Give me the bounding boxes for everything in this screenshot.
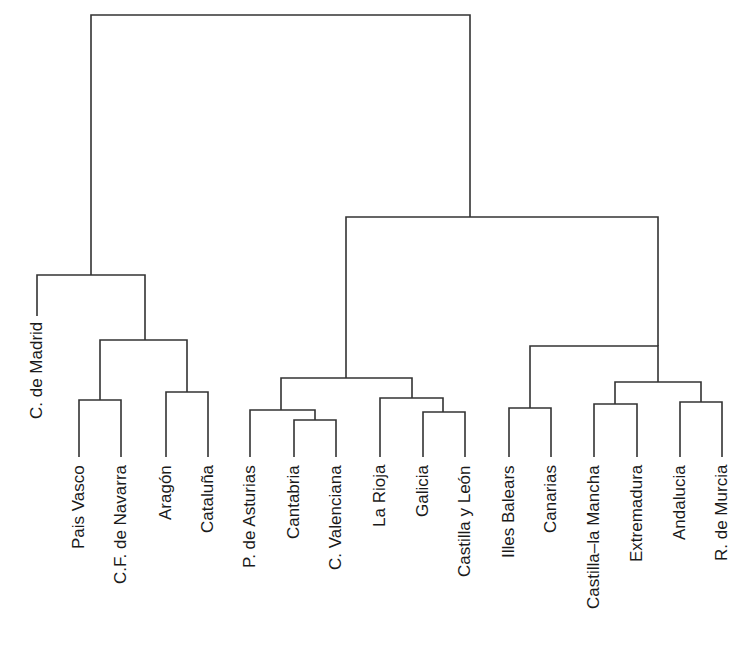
merge-link bbox=[380, 398, 443, 457]
leaf-label: Galicia bbox=[414, 465, 431, 517]
merge-link bbox=[509, 408, 551, 457]
leaf-label: Aragón bbox=[157, 465, 174, 520]
leaf-label: C.F. de Navarra bbox=[112, 465, 129, 584]
merge-link bbox=[100, 340, 187, 400]
leaf-label: La Rioja bbox=[371, 465, 388, 527]
merge-link bbox=[250, 410, 315, 457]
leaf-label: Castilla–la Mancha bbox=[585, 465, 602, 609]
leaf-label: C. Valenciana bbox=[327, 465, 344, 570]
leaf-label: Cantabria bbox=[285, 465, 302, 539]
leaf-label: Canarias bbox=[542, 465, 559, 533]
merge-link bbox=[530, 346, 658, 408]
merge-link bbox=[346, 217, 658, 378]
leaf-label: Illes Balears bbox=[500, 465, 517, 558]
merge-link bbox=[423, 412, 465, 457]
merge-link bbox=[680, 402, 722, 457]
merge-link bbox=[615, 382, 701, 404]
leaf-label: Castilla y León bbox=[456, 465, 473, 577]
merge-link bbox=[594, 404, 637, 457]
leaf-label: C. de Madrid bbox=[28, 322, 45, 419]
merge-link bbox=[166, 392, 208, 457]
leaf-label: Pais Vasco bbox=[70, 465, 87, 549]
leaf-label: R. de Murcia bbox=[713, 465, 730, 561]
merge-link bbox=[91, 15, 470, 275]
merge-link bbox=[79, 400, 121, 457]
leaf-label: Extremadura bbox=[628, 465, 645, 562]
leaf-label: Cataluña bbox=[199, 465, 216, 533]
merge-link bbox=[294, 420, 336, 457]
leaf-label: Andalucia bbox=[671, 465, 688, 540]
merge-link bbox=[37, 275, 145, 340]
merge-link bbox=[281, 378, 412, 410]
leaf-label: P. de Asturias bbox=[241, 465, 258, 568]
